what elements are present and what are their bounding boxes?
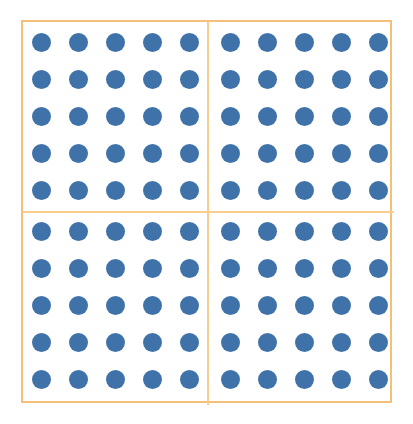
- quadrant-bottom-right: [209, 213, 393, 402]
- dot-array-frame: [21, 20, 392, 403]
- quadrant-top-right: [209, 22, 393, 211]
- quadrant-top-left: [23, 22, 207, 211]
- quadrant-bottom-left: [23, 213, 207, 402]
- figure-canvas: [0, 0, 413, 424]
